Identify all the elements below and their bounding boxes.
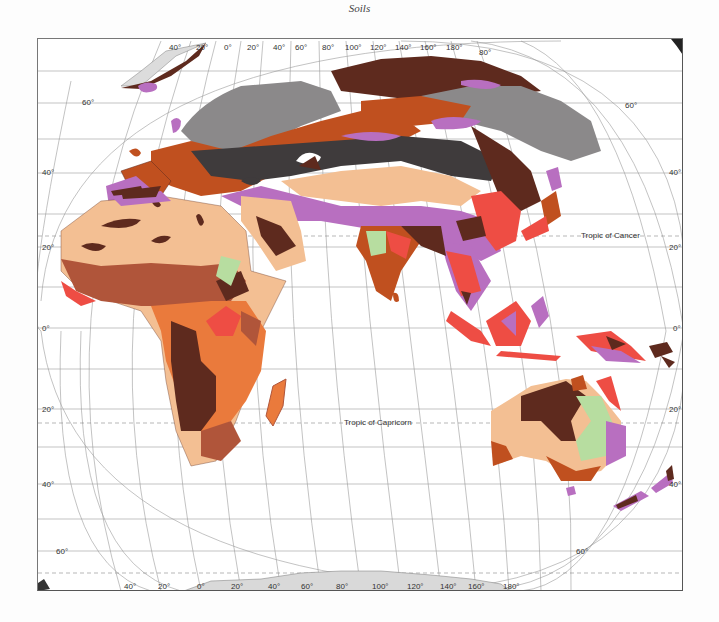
tropic-of-cancer-label: Tropic of Cancer (581, 231, 640, 240)
lon-label: 0° (197, 582, 205, 591)
lon-label: 20° (231, 582, 243, 591)
lon-label: 140° (440, 582, 457, 591)
lon-label: 20° (247, 43, 259, 52)
lon-label: 160° (468, 582, 485, 591)
lon-label: 160° (420, 43, 437, 52)
lat-label: 0° (42, 324, 50, 333)
lon-label: 80° (479, 48, 491, 57)
lon-label: 20° (158, 582, 170, 591)
lon-label: 180° (446, 43, 463, 52)
lon-label: 100° (345, 43, 362, 52)
lon-label: 20° (196, 43, 208, 52)
lat-label: 20° (669, 243, 681, 252)
lon-label: 60° (295, 43, 307, 52)
lon-label: 140° (395, 43, 412, 52)
lon-label: 40° (268, 582, 280, 591)
lat-label: 40° (42, 168, 54, 177)
lon-label: 40° (273, 43, 285, 52)
lat-label: 40° (669, 168, 681, 177)
map-title: Soils (0, 2, 719, 14)
lon-label: 120° (407, 582, 424, 591)
tropic-of-capricorn-label: Tropic of Capricorn (344, 418, 412, 427)
greenland (121, 43, 206, 86)
lat-label: 0° (673, 324, 681, 333)
lat-label: 60° (576, 547, 588, 556)
lat-label: 60° (82, 98, 94, 107)
lon-label: 60° (301, 582, 313, 591)
lon-label: 80° (322, 43, 334, 52)
lon-label: 40° (169, 43, 181, 52)
lon-label: 100° (372, 582, 389, 591)
map-frame[interactable]: 60° 40° 20° 0° 20° 40° 60° 60° 40° 20° 0… (37, 38, 683, 591)
lon-label: 120° (370, 43, 387, 52)
lat-label: 20° (42, 405, 54, 414)
lon-label: 180° (503, 582, 520, 591)
lat-label: 40° (42, 480, 54, 489)
lat-label: 20° (669, 405, 681, 414)
soil-map: 60° 40° 20° 0° 20° 40° 60° 60° 40° 20° 0… (38, 39, 683, 591)
lat-label: 40° (669, 480, 681, 489)
lon-label: 80° (336, 582, 348, 591)
lat-label: 60° (625, 101, 637, 110)
lat-label: 20° (42, 243, 54, 252)
lon-label: 40° (124, 582, 136, 591)
lon-label: 0° (224, 43, 232, 52)
lat-label: 60° (56, 547, 68, 556)
